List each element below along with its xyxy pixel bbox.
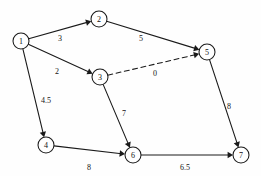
edge-4-to-6 [54,146,122,154]
node-3[interactable]: 3 [92,69,108,85]
arrowhead-3-to-5 [193,52,199,58]
arrowhead-1-to-4 [40,131,46,137]
node-1[interactable]: 1 [13,33,29,49]
node-4[interactable]: 4 [38,137,54,153]
node-5[interactable]: 5 [199,44,215,60]
node-7[interactable]: 7 [233,147,249,163]
edge-weight-1-2: 3 [58,34,62,43]
node-2[interactable]: 2 [91,11,107,27]
edge-weight-3-6: 7 [122,109,126,118]
node-6[interactable]: 6 [125,147,141,163]
edge-5-to-7 [210,60,238,144]
network-graph-canvas: 35204.57886.5 1234567 [0,0,261,176]
node-label-7: 7 [239,151,243,160]
node-label-1: 1 [19,37,23,46]
edge-2-to-5 [107,21,196,48]
edge-weight-5-7: 8 [227,102,231,111]
edge-3-to-5 [108,55,196,76]
edges-layer [23,21,238,155]
arrowhead-1-to-2 [85,20,91,26]
edge-weight-6-7: 6.5 [180,163,190,172]
arrowhead-4-to-6 [119,150,125,156]
node-label-6: 6 [131,151,135,160]
edge-weight-3-5: 0 [153,69,157,78]
edge-weight-4-6: 8 [87,163,91,172]
edge-1-to-4 [23,49,43,134]
node-label-5: 5 [205,48,209,57]
node-label-4: 4 [44,141,48,150]
arrowhead-6-to-7 [228,152,233,158]
edge-weight-1-3: 2 [55,67,59,76]
edge-weight-2-5: 5 [139,34,143,43]
network-diagram: 35204.57886.5 1234567 [0,0,261,176]
edge-weight-1-4: 4.5 [41,96,51,105]
node-label-3: 3 [98,73,102,82]
node-label-2: 2 [97,15,101,24]
